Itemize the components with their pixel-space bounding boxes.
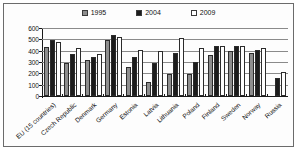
x-axis-labels: EU (15 countries)Czech RepublicDenmarkGe… <box>42 99 288 149</box>
legend-item-2004: 2004 <box>136 9 161 16</box>
bar-group <box>63 28 84 96</box>
bar-2009 <box>199 48 204 96</box>
legend-swatch-1995 <box>82 10 88 16</box>
bar-group <box>124 28 145 96</box>
bar-group <box>145 28 166 96</box>
bar-1995 <box>228 51 233 96</box>
legend-label-2009: 2009 <box>200 9 216 16</box>
x-label-cell: Estonia <box>124 99 145 149</box>
x-label-cell: Poland <box>186 99 207 149</box>
bar-2009 <box>158 51 163 96</box>
bar-1995 <box>249 53 254 96</box>
x-axis-line <box>42 96 288 97</box>
bar-1995 <box>105 40 110 96</box>
x-label-cell: Denmark <box>83 99 104 149</box>
bar-2009 <box>220 46 225 96</box>
bar-1995 <box>44 47 49 96</box>
bar-group <box>247 28 268 96</box>
bar-2004 <box>132 57 137 96</box>
bar-group <box>83 28 104 96</box>
bar-2009 <box>261 48 266 96</box>
bar-2004 <box>91 57 96 96</box>
bar-2009 <box>240 46 245 96</box>
bar-1995 <box>126 67 131 96</box>
chart-legend: 1995 2004 2009 <box>4 9 293 16</box>
bar-group <box>268 28 289 96</box>
bar-1995 <box>208 55 213 96</box>
legend-swatch-2009 <box>191 10 197 16</box>
bar-2004 <box>193 62 198 96</box>
bar-2004 <box>275 78 280 96</box>
bar-2009 <box>76 48 81 96</box>
x-label-cell: Latvia <box>145 99 166 149</box>
legend-item-1995: 1995 <box>82 9 107 16</box>
bar-2004 <box>50 40 55 96</box>
bar-group <box>186 28 207 96</box>
bar-1995 <box>167 74 172 96</box>
bar-2004 <box>255 50 260 96</box>
bar-2004 <box>111 35 116 96</box>
x-label-cell: Germany <box>104 99 125 149</box>
y-axis-tick-marks <box>4 28 42 97</box>
bar-2004 <box>152 63 157 96</box>
bar-group <box>104 28 125 96</box>
bar-group <box>227 28 248 96</box>
bar-1995 <box>64 63 69 96</box>
x-label-cell: Sweden <box>227 99 248 149</box>
x-axis-label: Latvia <box>142 101 160 118</box>
legend-label-2004: 2004 <box>145 9 161 16</box>
bar-2009 <box>138 50 143 96</box>
chart-frame: 1995 2004 2009 6005004003002001000 EU (1… <box>3 3 294 147</box>
x-label-cell: Lithuania <box>165 99 186 149</box>
bar-2009 <box>179 38 184 96</box>
bar-group <box>42 28 63 96</box>
bar-2004 <box>234 46 239 96</box>
plot-area <box>42 28 288 97</box>
bar-2004 <box>173 53 178 96</box>
legend-swatch-2004 <box>136 10 142 16</box>
bar-2004 <box>70 54 75 96</box>
bar-1995 <box>146 82 151 96</box>
legend-label-1995: 1995 <box>91 9 107 16</box>
bar-2009 <box>97 54 102 96</box>
bar-2009 <box>117 37 122 96</box>
bar-2009 <box>56 42 61 96</box>
bar-group <box>206 28 227 96</box>
legend-item-2009: 2009 <box>191 9 216 16</box>
bar-1995 <box>187 74 192 96</box>
x-label-cell: Finland <box>206 99 227 149</box>
bar-1995 <box>85 60 90 96</box>
x-label-cell: Czech Republic <box>63 99 84 149</box>
bar-2009 <box>281 72 286 96</box>
x-label-cell: Norway <box>247 99 268 149</box>
bar-groups <box>42 28 288 96</box>
bar-group <box>165 28 186 96</box>
bar-2004 <box>214 46 219 96</box>
x-label-cell: Russia <box>268 99 289 149</box>
